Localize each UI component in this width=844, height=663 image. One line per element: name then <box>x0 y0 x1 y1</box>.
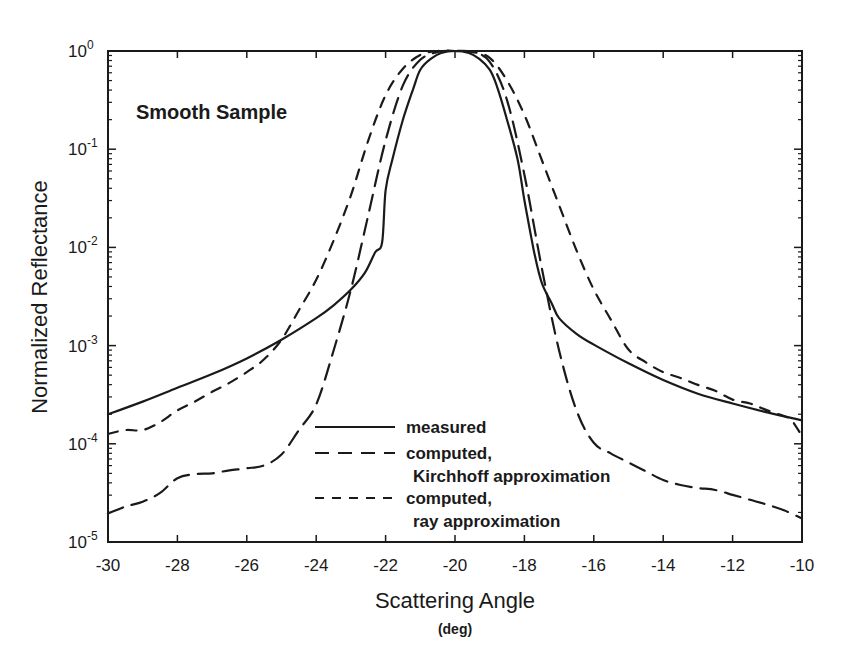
x-tick-label: -22 <box>373 556 398 575</box>
y-tick-label: 10-1 <box>68 136 98 159</box>
y-axis-title: Normalized Reflectance <box>27 180 52 414</box>
legend-label-kirchhoff-line1: computed, <box>406 444 492 463</box>
x-tick-label: -16 <box>582 556 607 575</box>
legend-label-ray-line2: ray approximation <box>413 512 560 531</box>
legend-label-measured: measured <box>406 418 486 437</box>
x-axis-unit: (deg) <box>438 621 472 637</box>
x-tick-label: -10 <box>790 556 815 575</box>
legend: measured computed, Kirchhoff approximati… <box>315 418 610 531</box>
x-tick-label: -24 <box>304 556 329 575</box>
sample-annotation: Smooth Sample <box>136 101 287 123</box>
x-axis-title: Scattering Angle <box>375 588 535 613</box>
x-tick-label: -26 <box>235 556 260 575</box>
x-tick-label: -30 <box>96 556 121 575</box>
x-tick-labels: -30-28-26-24-22-20-18-16-14-12-10 <box>96 556 815 575</box>
y-tick-label: 10-3 <box>68 333 98 356</box>
y-tick-label: 10-2 <box>68 234 98 257</box>
y-tick-label: 10-4 <box>68 431 98 454</box>
legend-label-kirchhoff-line2: Kirchhoff approximation <box>413 467 610 486</box>
y-tick-labels: 10010-110-210-310-410-5 <box>68 38 98 552</box>
x-tick-label: -14 <box>651 556 676 575</box>
legend-label-ray-line1: computed, <box>406 489 492 508</box>
y-tick-label: 100 <box>68 38 94 61</box>
x-tick-label: -20 <box>443 556 468 575</box>
x-tick-label: -12 <box>720 556 745 575</box>
chart-canvas: -30-28-26-24-22-20-18-16-14-12-10 10010-… <box>0 0 844 663</box>
x-tick-label: -28 <box>165 556 190 575</box>
y-tick-label: 10-5 <box>68 529 98 552</box>
x-tick-label: -18 <box>512 556 537 575</box>
